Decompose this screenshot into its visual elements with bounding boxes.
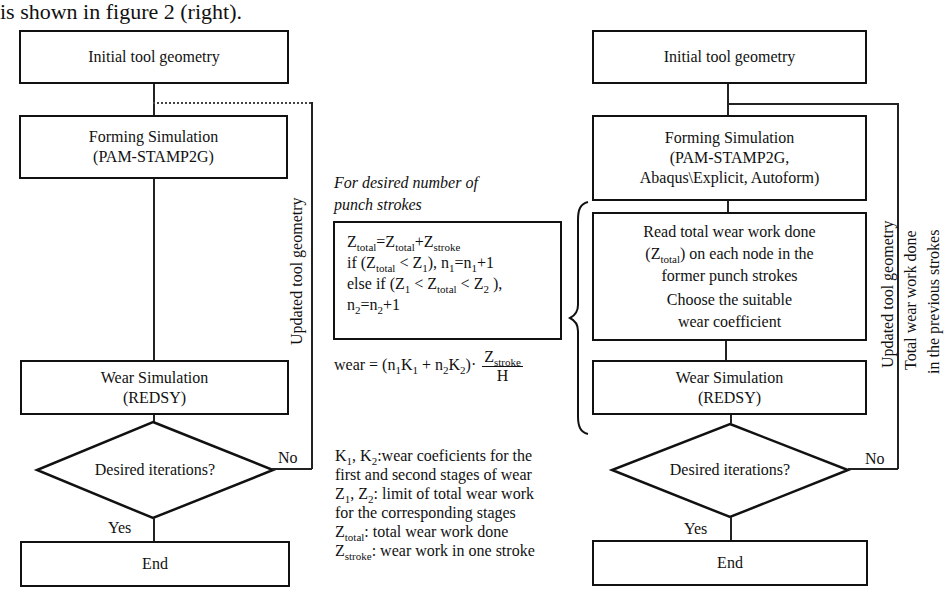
right-feedback-line (897, 103, 899, 469)
left-connector-2 (153, 179, 155, 360)
left-no-label: No (278, 449, 298, 467)
left-feedback-label: Updated tool geometry (288, 197, 306, 345)
left-wear-simulation-box: Wear Simulation (REDSY) (20, 360, 289, 415)
left-forming-label: Forming Simulation (89, 127, 218, 147)
right-yes-label: Yes (684, 520, 707, 538)
right-no-line (848, 468, 898, 470)
wear-fraction: Zstroke H (482, 348, 523, 385)
rule-line-1: Ztotal=Ztotal+Zstroke (347, 231, 560, 252)
read-line-1: Read total wear work done (643, 221, 815, 243)
left-wear-software: (REDSY) (123, 388, 186, 408)
rule-line-4: n2=n2+1 (347, 294, 560, 315)
right-feedback-label-2: Total wear work done (902, 230, 920, 370)
header-text: is shown in figure 2 (right). (0, 0, 242, 24)
legend-line-6: Zstroke: wear work in one stroke (335, 541, 535, 560)
right-connector-1 (727, 84, 729, 115)
right-connector-3 (725, 341, 727, 361)
left-feedback-line (311, 102, 313, 469)
right-forming-simulation-box: Forming Simulation (PAM-STAMP2G, Abaqus\… (592, 115, 867, 201)
caption-line-1: For desired number of (334, 174, 478, 192)
right-forming-software-1: (PAM-STAMP2G, (670, 148, 790, 168)
right-forming-software-2: Abaqus\Explicit, Autoform) (640, 168, 820, 188)
wear-formula: wear = (n1K1 + n2K2)· Zstroke H (334, 348, 523, 385)
left-initial-label: Initial tool geometry (88, 47, 220, 67)
right-end-label: End (717, 553, 743, 573)
right-wear-label: Wear Simulation (676, 368, 784, 388)
right-end-box: End (592, 540, 868, 586)
right-feedback-label-1: Updated tool geometry (879, 220, 897, 368)
legend-line-1: K1, K2:wear coeficients for the (335, 446, 535, 465)
legend-line-3: Z1, Z2: limit of total wear work (335, 484, 535, 503)
left-connector-1 (153, 84, 155, 115)
right-feedback-top-line (727, 103, 898, 105)
left-forming-software: (PAM-STAMP2G) (93, 147, 214, 167)
left-forming-simulation-box: Forming Simulation (PAM-STAMP2G) (19, 115, 288, 179)
right-no-label: No (865, 450, 885, 468)
right-initial-label: Initial tool geometry (664, 47, 796, 67)
right-connector-5 (730, 517, 732, 541)
read-line-2: (Ztotal) on each node in the (645, 243, 813, 265)
symbol-legend: K1, K2:wear coeficients for the first an… (335, 446, 535, 560)
left-yes-label: Yes (108, 519, 131, 537)
left-feedback-top-line (153, 102, 311, 104)
left-connector-4 (153, 518, 155, 541)
right-decision-label: Desired iterations? (612, 461, 848, 479)
read-line-4: Choose the suitable (667, 289, 792, 311)
legend-line-2: first and second stages of wear (335, 465, 535, 484)
left-initial-geometry-box: Initial tool geometry (19, 30, 289, 84)
left-no-line (272, 468, 312, 470)
caption-line-2: punch strokes (334, 196, 422, 214)
read-line-3: former punch strokes (662, 265, 798, 287)
rule-line-3: else if (Z1 < Ztotal < Z2 ), (347, 273, 560, 294)
curly-brace-icon (568, 200, 592, 436)
left-wear-label: Wear Simulation (101, 368, 209, 388)
read-line-5: wear coefficient (678, 311, 781, 333)
wear-rule-box: Ztotal=Ztotal+Zstroke if (Ztotal < Z1), … (333, 221, 562, 340)
legend-line-5: Ztotal: total wear work done (335, 522, 535, 541)
legend-line-4: for the corresponding stages (335, 503, 535, 522)
right-initial-geometry-box: Initial tool geometry (592, 30, 867, 84)
right-feedback-label-3: in the previous strokes (925, 230, 943, 374)
rule-line-2: if (Ztotal < Z1), n1=n1+1 (347, 252, 560, 273)
right-forming-label: Forming Simulation (665, 128, 794, 148)
right-wear-simulation-box: Wear Simulation (REDSY) (592, 360, 867, 415)
left-decision-label: Desired iterations? (37, 461, 273, 479)
right-read-wear-box: Read total wear work done (Ztotal) on ea… (592, 212, 867, 341)
left-end-box: End (20, 541, 290, 587)
left-end-label: End (142, 554, 168, 574)
right-wear-software: (REDSY) (698, 388, 761, 408)
